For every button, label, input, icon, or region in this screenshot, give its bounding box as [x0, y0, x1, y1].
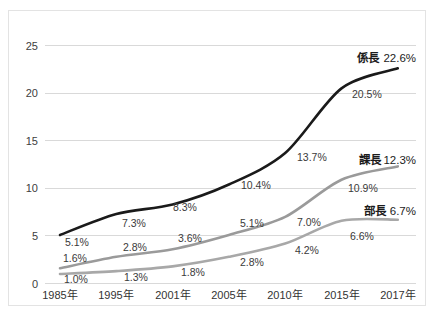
y-tick-25: 25 — [26, 40, 38, 52]
point-label-kakaricho-2001: 8.3% — [173, 201, 197, 213]
x-label-2017: 2017年 — [380, 288, 415, 301]
series-end-label-kakaricho: 係長22.6% — [357, 51, 416, 64]
point-label-kacho-1995: 2.8% — [123, 241, 147, 253]
y-tick-5: 5 — [32, 230, 38, 242]
point-label-kacho-1985: 1.6% — [63, 252, 87, 264]
y-tick-0: 0 — [32, 278, 38, 290]
series-value-kakaricho: 22.6% — [383, 52, 416, 64]
series-name-kakaricho: 係長 — [357, 51, 380, 64]
point-label-bucho-2001: 1.8% — [181, 266, 205, 278]
x-label-2015: 2015年 — [324, 288, 359, 301]
series-end-label-bucho: 部長6.7% — [364, 204, 416, 217]
y-tick-10: 10 — [26, 182, 38, 194]
line-chart: 25 20 15 10 5 0 1985年 1995年 2001年 2005年 … — [0, 0, 434, 316]
y-axis-tick-labels: 25 20 15 10 5 0 — [26, 40, 38, 290]
point-label-bucho-2015: 6.6% — [350, 230, 374, 242]
series-lines — [60, 68, 398, 274]
point-label-kacho-2015: 10.9% — [348, 182, 378, 194]
point-label-kakaricho-2015: 20.5% — [352, 88, 382, 100]
x-label-2005: 2005年 — [211, 288, 246, 301]
series-line-bucho — [60, 219, 398, 274]
x-axis-category-labels: 1985年 1995年 2001年 2005年 2010年 2015年 2017… — [42, 288, 415, 301]
point-label-kakaricho-2010: 13.7% — [297, 151, 327, 163]
point-label-kakaricho-2005: 10.4% — [241, 179, 271, 191]
x-label-2010: 2010年 — [267, 288, 302, 301]
point-label-bucho-2010: 4.2% — [295, 244, 319, 256]
point-label-kakaricho-1995: 7.3% — [122, 217, 146, 229]
point-label-kakaricho-1985: 5.1% — [65, 236, 89, 248]
series-end-label-kacho: 課長12.3% — [359, 153, 416, 166]
point-label-bucho-1995: 1.3% — [124, 271, 148, 283]
series-name-kacho: 課長 — [359, 153, 382, 166]
point-label-kacho-2001: 3.6% — [178, 232, 202, 244]
series-value-kacho: 12.3% — [383, 154, 416, 166]
point-label-kacho-2010: 7.0% — [297, 216, 321, 228]
point-label-bucho-2005: 2.8% — [240, 256, 264, 268]
x-label-1995: 1995年 — [98, 288, 133, 301]
x-label-2001: 2001年 — [155, 288, 190, 301]
y-tick-15: 15 — [26, 135, 38, 147]
x-label-1985: 1985年 — [42, 288, 77, 301]
y-tick-20: 20 — [26, 87, 38, 99]
series-value-bucho: 6.7% — [390, 205, 416, 217]
point-label-bucho-1985: 1.0% — [64, 273, 88, 285]
point-label-kacho-2005: 5.1% — [240, 217, 264, 229]
series-name-bucho: 部長 — [364, 204, 387, 217]
